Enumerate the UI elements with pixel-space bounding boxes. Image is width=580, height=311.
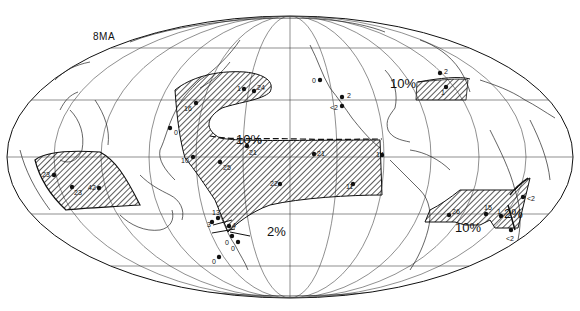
site-dot bbox=[217, 255, 221, 259]
site-label: 0 bbox=[231, 245, 235, 252]
site-label: 21 bbox=[249, 149, 257, 156]
site-label: 1 bbox=[237, 85, 241, 92]
site-label: 3 bbox=[207, 221, 211, 228]
site-label: <2 bbox=[330, 104, 338, 111]
site-dot bbox=[218, 160, 222, 164]
site-dot bbox=[236, 240, 240, 244]
site-label: 1 bbox=[441, 89, 445, 96]
contour-label: 2% bbox=[267, 224, 286, 239]
map-figure: 8MA 10% 10% 2% 2% 10% 16124002<221212110… bbox=[0, 0, 580, 311]
site-dot bbox=[312, 152, 316, 156]
site-label: 4 bbox=[232, 222, 236, 229]
site-dot bbox=[318, 78, 322, 82]
site-label: 16 bbox=[184, 105, 192, 112]
site-label: 24 bbox=[257, 84, 265, 91]
site-dot bbox=[191, 155, 195, 159]
site-dot bbox=[194, 101, 198, 105]
site-marker: 14 bbox=[376, 151, 384, 158]
site-dot bbox=[97, 186, 101, 190]
site-label: 2 bbox=[347, 92, 351, 99]
site-label: 10 bbox=[181, 157, 189, 164]
site-label: 11 bbox=[346, 183, 353, 190]
contour-label: 2% bbox=[504, 206, 523, 221]
contour-label: 10% bbox=[390, 76, 416, 91]
contour-label: 10% bbox=[236, 132, 262, 147]
site-dot bbox=[230, 234, 234, 238]
site-label: 1 bbox=[497, 208, 501, 215]
site-dot bbox=[521, 195, 525, 199]
site-label: 0 bbox=[212, 258, 216, 265]
site-dot bbox=[340, 95, 344, 99]
site-label: 0 bbox=[312, 77, 316, 84]
site-label: <2 bbox=[506, 235, 514, 242]
site-label: 14 bbox=[376, 151, 384, 158]
site-label: 0 bbox=[174, 129, 178, 136]
site-label: 2 bbox=[444, 68, 448, 75]
site-label: <2 bbox=[527, 195, 535, 202]
site-label: 22 bbox=[270, 180, 278, 187]
site-label: 13 bbox=[212, 209, 220, 216]
site-dot bbox=[509, 228, 513, 232]
map-title: 8MA bbox=[93, 31, 115, 42]
site-label: 0 bbox=[225, 239, 229, 246]
site-dot bbox=[252, 89, 256, 93]
site-label: 23 bbox=[42, 171, 50, 178]
site-dot bbox=[216, 216, 220, 220]
site-label: 42 bbox=[88, 184, 96, 191]
site-dot bbox=[245, 144, 249, 148]
site-label: 26 bbox=[452, 208, 460, 215]
site-dot bbox=[447, 213, 451, 217]
site-dot bbox=[340, 104, 344, 108]
site-dot bbox=[52, 173, 56, 177]
site-dot bbox=[227, 224, 231, 228]
site-label: 15 bbox=[484, 204, 492, 211]
site-label: 23 bbox=[74, 189, 82, 196]
contour-label: 10% bbox=[455, 220, 481, 235]
site-dot bbox=[438, 71, 442, 75]
site-dot bbox=[278, 182, 282, 186]
site-label: 21 bbox=[317, 150, 325, 157]
site-label: 25 bbox=[223, 164, 231, 171]
site-dot bbox=[484, 212, 488, 216]
site-dot bbox=[242, 87, 246, 91]
site-dot bbox=[168, 126, 172, 130]
